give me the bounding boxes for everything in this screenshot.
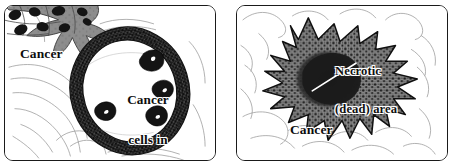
vessel-label-line-2: cells in [113,133,183,146]
vessel-label-line-1: Cancer [113,93,183,106]
cancer-illustration-figure: Cancer Cancer cells in blood vessel [0,0,453,167]
label-cancer-tumor-left: Cancer [20,47,63,61]
label-necrotic-dead-area: Necrotic (dead) area [335,39,397,142]
left-panel-artwork [5,6,215,160]
label-cancer-tumor-right: Cancer [290,123,333,137]
necrotic-label-line-1: Necrotic [335,65,397,78]
panel-necrotic-tumor: Necrotic (dead) area Cancer [236,5,448,161]
necrotic-label-line-2: (dead) area [335,103,397,116]
panel-cancer-in-blood-vessel: Cancer Cancer cells in blood vessel [4,5,216,161]
label-cancer-cells-in-blood-vessel: Cancer cells in blood vessel [113,66,183,161]
